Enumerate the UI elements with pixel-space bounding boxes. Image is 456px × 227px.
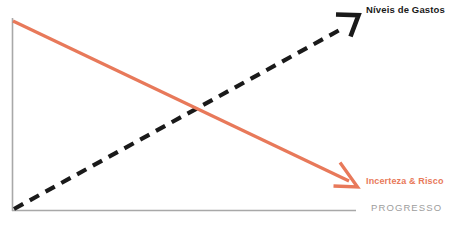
series-line-uncertainty [13,21,349,181]
series-label-uncertainty: Incerteza & Risco [366,177,444,186]
series-line-spending [14,27,345,209]
arrow-up-right-icon [336,15,359,37]
chart-canvas: Níveis de Gastos Incerteza & Risco PROGR… [0,0,456,227]
chart-plot-area [0,0,456,227]
series-label-spending: Níveis de Gastos [366,5,445,15]
x-axis-label-progress: PROGRESSO [371,203,442,213]
